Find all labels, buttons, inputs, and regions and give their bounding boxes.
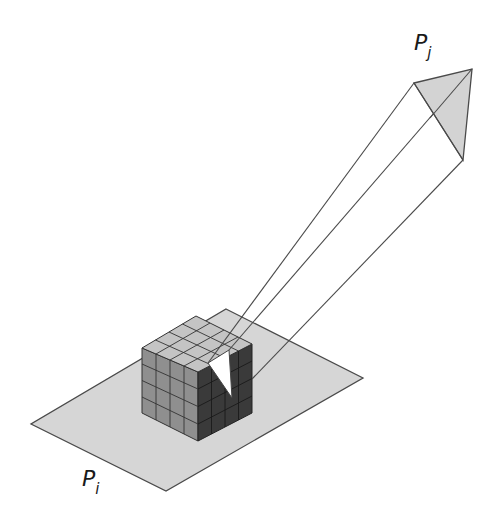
- label-patch-i: Pi: [82, 466, 99, 495]
- label-patch-i-base: P: [82, 466, 95, 491]
- ray-a: [208, 83, 414, 363]
- label-patch-j: Pj: [414, 30, 431, 59]
- label-patch-i-sub: i: [95, 480, 99, 498]
- diagram-canvas: [0, 0, 498, 520]
- ray-c: [252, 160, 463, 379]
- patch-pj: [414, 69, 472, 160]
- label-patch-j-sub: j: [427, 44, 431, 62]
- label-patch-j-base: P: [414, 30, 427, 55]
